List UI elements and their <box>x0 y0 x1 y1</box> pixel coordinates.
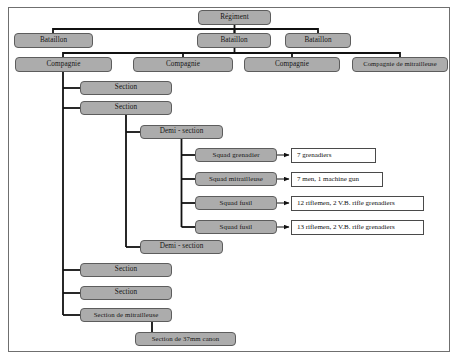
node-squad-grenadier[interactable]: Squad grenadier <box>195 148 277 162</box>
node-demi-section-2[interactable]: Demi - section <box>140 240 223 254</box>
node-section-de-mitrailleuse[interactable]: Section de mitrailleuse <box>80 308 172 322</box>
node-section-2[interactable]: Section <box>80 101 172 115</box>
leaf-13-riflemen: 13 riflemen, 2 V.B. rifle grenadiers <box>291 220 424 235</box>
node-layer: Régiment Bataillon Bataillon Bataillon C… <box>0 0 464 362</box>
node-demi-section-1[interactable]: Demi - section <box>140 125 223 139</box>
leaf-12-riflemen: 12 riflemen, 2 V.B. rifle grenadiers <box>291 196 424 211</box>
node-section-de-37mm-canon[interactable]: Section de 37mm canon <box>135 332 236 346</box>
node-bataillon-1[interactable]: Bataillon <box>14 33 93 48</box>
node-squad-fusil-1[interactable]: Squad fusil <box>195 196 277 210</box>
node-bataillon-2[interactable]: Bataillon <box>197 33 271 48</box>
node-section-4[interactable]: Section <box>80 286 172 300</box>
node-regiment[interactable]: Régiment <box>198 10 271 25</box>
node-bataillon-3[interactable]: Bataillon <box>285 33 351 48</box>
leaf-7-men-1-machine-gun: 7 men, 1 machine gun <box>291 172 383 187</box>
node-compagnie-1[interactable]: Compagnie <box>15 57 112 72</box>
leaf-7-grenadiers: 7 grenadiers <box>291 148 376 163</box>
node-compagnie-3[interactable]: Compagnie <box>244 57 340 72</box>
node-squad-mitrailleuse[interactable]: Squad mitrailleuse <box>195 172 277 186</box>
node-compagnie-de-mitrailleuse[interactable]: Compagnie de mitrailleuse <box>352 57 448 72</box>
node-squad-fusil-2[interactable]: Squad fusil <box>195 220 277 234</box>
node-compagnie-2[interactable]: Compagnie <box>133 57 233 72</box>
node-section-3[interactable]: Section <box>80 263 172 277</box>
organisation-chart: Régiment Bataillon Bataillon Bataillon C… <box>0 0 464 362</box>
node-section-1[interactable]: Section <box>80 81 172 95</box>
